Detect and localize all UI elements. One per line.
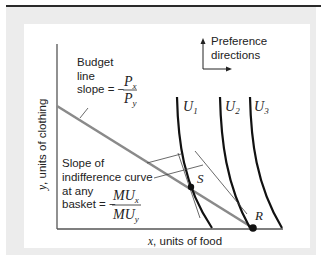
arrow-up-icon	[201, 38, 206, 44]
indifference-diagram: Preference directions Budget line slope …	[0, 0, 321, 261]
ic-label-pointer-1	[147, 154, 181, 163]
ic-label-line2: indifference curve	[62, 171, 153, 183]
indifference-curve-u1	[177, 97, 212, 228]
curve-label-u3: U3	[254, 99, 269, 116]
budget-label-pointer	[80, 108, 88, 118]
budget-slope-prefix: slope = −	[77, 83, 125, 95]
point-r	[249, 224, 257, 232]
budget-label-line2: line	[77, 70, 95, 82]
point-label-r: R	[254, 208, 263, 223]
figure-frame: Preference directions Budget line slope …	[0, 0, 321, 261]
ic-slope-numerator: MUx	[112, 188, 139, 205]
ic-label-line4: basket = −	[62, 198, 116, 210]
ic-label-line3: at any	[62, 185, 94, 197]
y-axis-label: y, units of clothing	[36, 99, 49, 191]
preference-label-line2: directions	[211, 49, 260, 61]
curve-label-u1: U1	[183, 99, 198, 116]
budget-label-line1: Budget	[77, 56, 114, 68]
point-label-s: S	[197, 171, 204, 186]
budget-slope-denominator: Py	[123, 91, 137, 108]
budget-slope-numerator: Px	[123, 74, 137, 91]
indifference-curve-u2	[220, 97, 250, 228]
ic-label-line1: Slope of	[62, 157, 105, 169]
ic-slope-denominator: MUy	[112, 207, 139, 224]
arrow-right-icon	[226, 67, 232, 72]
point-s	[188, 184, 194, 190]
curve-label-u2: U2	[225, 99, 240, 116]
x-axis-label: x, units of food	[147, 235, 222, 247]
preference-label-line1: Preference	[211, 35, 267, 47]
